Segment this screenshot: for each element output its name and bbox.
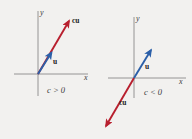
panel-left-graphics <box>0 0 96 139</box>
vector-label-cu-right: cu <box>119 99 127 107</box>
vector-u-left <box>38 53 52 75</box>
panel-right-graphics <box>96 0 192 139</box>
scalar-multiplication-figure: y x u cu c > 0 y x u <box>0 0 192 139</box>
y-axis-label-right: y <box>136 15 140 23</box>
condition-label-left: c > 0 <box>47 86 65 95</box>
vector-label-u-right: u <box>145 63 149 71</box>
x-axis-label-left: x <box>84 74 88 82</box>
x-axis-label-right: x <box>179 78 183 86</box>
vector-label-u-left: u <box>53 58 57 66</box>
y-axis-label-left: y <box>40 9 44 17</box>
panel-c-positive: y x u cu c > 0 <box>0 0 96 139</box>
panel-c-negative: y x u cu c < 0 <box>96 0 192 139</box>
vector-label-cu-left: cu <box>72 17 80 25</box>
condition-label-right: c < 0 <box>144 88 162 97</box>
